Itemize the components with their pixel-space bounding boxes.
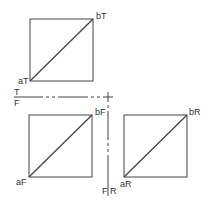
top-view-line: [30, 19, 93, 81]
front-view-line: [29, 115, 92, 177]
label-bT: bT: [96, 12, 107, 21]
label-bF: bF: [95, 108, 106, 117]
label-F-top: F: [14, 99, 20, 108]
label-T: T: [14, 88, 20, 97]
label-R: R: [110, 187, 117, 196]
label-bR: bR: [189, 108, 201, 117]
label-F-side: F: [102, 187, 108, 196]
label-aR: aR: [120, 180, 132, 189]
projection-diagram: [0, 0, 208, 208]
label-aF: aF: [16, 178, 27, 187]
label-aT: aT: [18, 77, 29, 86]
right-view-line: [124, 115, 187, 177]
